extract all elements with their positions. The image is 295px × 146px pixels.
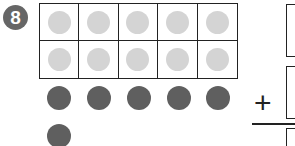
ten-frame-cell [119, 41, 158, 78]
ten-frame-cell [40, 41, 79, 78]
ten-frame-cell [158, 41, 197, 78]
dark-counter-icon [206, 86, 230, 110]
light-counter-icon [206, 11, 229, 34]
ten-frame-cell [198, 4, 237, 41]
light-counter-icon [166, 48, 189, 71]
dark-counter-icon [87, 86, 111, 110]
light-counter-icon [166, 11, 189, 34]
dark-counter-icon [127, 86, 151, 110]
light-counter-icon [48, 48, 71, 71]
light-counter-icon [126, 11, 149, 34]
ten-frame-cell [198, 41, 237, 78]
dark-counter-icon [47, 124, 71, 146]
ten-frame-cell [79, 41, 118, 78]
dark-counter-icon [167, 86, 191, 110]
sum-box[interactable] [286, 128, 295, 146]
light-counter-icon [87, 11, 110, 34]
light-counter-icon [87, 48, 110, 71]
ten-frame-cell [119, 4, 158, 41]
ten-frame-cell [79, 4, 118, 41]
problem-number-badge: 8 [3, 5, 28, 30]
sum-line [252, 123, 295, 125]
light-counter-icon [206, 48, 229, 71]
ten-frame-cell [158, 4, 197, 41]
light-counter-icon [126, 48, 149, 71]
addend-1-box[interactable] [286, 4, 295, 57]
addend-2-box[interactable] [286, 66, 295, 119]
plus-sign: + [254, 88, 272, 118]
ten-frame-cell [40, 4, 79, 41]
ten-frame [39, 3, 238, 79]
dark-counter-icon [47, 86, 71, 110]
light-counter-icon [48, 11, 71, 34]
